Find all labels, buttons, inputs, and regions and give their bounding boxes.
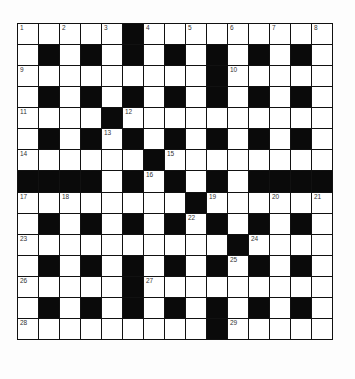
crossword-cell[interactable]: [81, 108, 101, 128]
crossword-cell[interactable]: 23: [18, 235, 38, 255]
crossword-cell[interactable]: [81, 277, 101, 297]
crossword-cell[interactable]: [186, 298, 206, 318]
crossword-cell[interactable]: [291, 235, 311, 255]
crossword-cell[interactable]: 15: [165, 150, 185, 170]
crossword-cell[interactable]: [165, 108, 185, 128]
crossword-cell[interactable]: 6: [228, 24, 248, 44]
crossword-cell[interactable]: [81, 66, 101, 86]
crossword-cell[interactable]: [102, 277, 122, 297]
crossword-cell[interactable]: [270, 66, 290, 86]
crossword-cell[interactable]: 19: [207, 193, 227, 213]
crossword-cell[interactable]: [39, 319, 59, 339]
crossword-cell[interactable]: [60, 256, 80, 276]
crossword-cell[interactable]: 7: [270, 24, 290, 44]
crossword-cell[interactable]: [102, 87, 122, 107]
crossword-cell[interactable]: [18, 129, 38, 149]
crossword-cell[interactable]: [270, 129, 290, 149]
crossword-cell[interactable]: [270, 277, 290, 297]
crossword-cell[interactable]: 5: [186, 24, 206, 44]
crossword-cell[interactable]: 1: [18, 24, 38, 44]
crossword-cell[interactable]: [291, 24, 311, 44]
crossword-cell[interactable]: [144, 108, 164, 128]
crossword-cell[interactable]: [249, 277, 269, 297]
crossword-cell[interactable]: [102, 214, 122, 234]
crossword-cell[interactable]: [270, 87, 290, 107]
crossword-cell[interactable]: 14: [18, 150, 38, 170]
crossword-cell[interactable]: [228, 298, 248, 318]
crossword-cell[interactable]: [270, 235, 290, 255]
crossword-cell[interactable]: [249, 150, 269, 170]
crossword-cell[interactable]: [102, 256, 122, 276]
crossword-cell[interactable]: [207, 108, 227, 128]
crossword-cell[interactable]: 16: [144, 171, 164, 191]
crossword-cell[interactable]: [249, 24, 269, 44]
crossword-cell[interactable]: 27: [144, 277, 164, 297]
crossword-cell[interactable]: [291, 108, 311, 128]
crossword-cell[interactable]: [312, 87, 332, 107]
crossword-cell[interactable]: [165, 193, 185, 213]
crossword-cell[interactable]: [81, 150, 101, 170]
crossword-cell[interactable]: [312, 298, 332, 318]
crossword-cell[interactable]: [60, 66, 80, 86]
crossword-cell[interactable]: [144, 214, 164, 234]
crossword-cell[interactable]: [144, 256, 164, 276]
crossword-cell[interactable]: 22: [186, 214, 206, 234]
crossword-cell[interactable]: [291, 193, 311, 213]
crossword-cell[interactable]: [270, 214, 290, 234]
crossword-cell[interactable]: 3: [102, 24, 122, 44]
crossword-cell[interactable]: [18, 214, 38, 234]
crossword-cell[interactable]: [39, 277, 59, 297]
crossword-cell[interactable]: [123, 193, 143, 213]
crossword-cell[interactable]: [60, 150, 80, 170]
crossword-cell[interactable]: 2: [60, 24, 80, 44]
crossword-cell[interactable]: 26: [18, 277, 38, 297]
crossword-cell[interactable]: [60, 277, 80, 297]
crossword-cell[interactable]: [312, 108, 332, 128]
crossword-cell[interactable]: [102, 319, 122, 339]
crossword-cell[interactable]: [228, 214, 248, 234]
crossword-cell[interactable]: [312, 214, 332, 234]
crossword-cell[interactable]: [228, 150, 248, 170]
crossword-cell[interactable]: [144, 66, 164, 86]
crossword-cell[interactable]: 25: [228, 256, 248, 276]
crossword-cell[interactable]: [186, 277, 206, 297]
crossword-cell[interactable]: [249, 66, 269, 86]
crossword-cell[interactable]: [186, 87, 206, 107]
crossword-cell[interactable]: [165, 66, 185, 86]
crossword-cell[interactable]: [60, 298, 80, 318]
crossword-cell[interactable]: 21: [312, 193, 332, 213]
crossword-cell[interactable]: 9: [18, 66, 38, 86]
crossword-cell[interactable]: [228, 193, 248, 213]
crossword-cell[interactable]: 13: [102, 129, 122, 149]
crossword-cell[interactable]: [39, 24, 59, 44]
crossword-cell[interactable]: [312, 129, 332, 149]
crossword-cell[interactable]: [270, 319, 290, 339]
crossword-cell[interactable]: [270, 150, 290, 170]
crossword-cell[interactable]: [207, 277, 227, 297]
crossword-cell[interactable]: [39, 108, 59, 128]
crossword-cell[interactable]: [102, 45, 122, 65]
crossword-cell[interactable]: [207, 24, 227, 44]
crossword-cell[interactable]: [18, 45, 38, 65]
crossword-cell[interactable]: [186, 108, 206, 128]
crossword-cell[interactable]: [60, 319, 80, 339]
crossword-cell[interactable]: 11: [18, 108, 38, 128]
crossword-cell[interactable]: [312, 45, 332, 65]
crossword-cell[interactable]: [228, 108, 248, 128]
crossword-cell[interactable]: [81, 235, 101, 255]
crossword-cell[interactable]: [207, 150, 227, 170]
crossword-cell[interactable]: [144, 129, 164, 149]
crossword-cell[interactable]: [60, 129, 80, 149]
crossword-cell[interactable]: [165, 277, 185, 297]
crossword-cell[interactable]: [102, 150, 122, 170]
crossword-cell[interactable]: 28: [18, 319, 38, 339]
crossword-cell[interactable]: [39, 193, 59, 213]
crossword-cell[interactable]: [270, 45, 290, 65]
crossword-cell[interactable]: [228, 129, 248, 149]
crossword-cell[interactable]: [186, 45, 206, 65]
crossword-cell[interactable]: [60, 235, 80, 255]
crossword-cell[interactable]: [186, 129, 206, 149]
crossword-cell[interactable]: [228, 87, 248, 107]
crossword-cell[interactable]: [312, 235, 332, 255]
crossword-cell[interactable]: [186, 150, 206, 170]
